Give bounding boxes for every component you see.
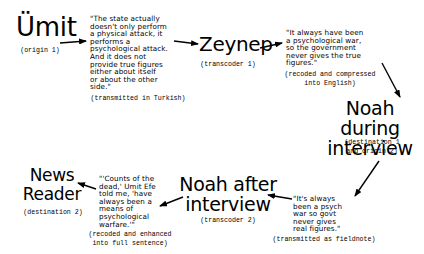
node-noah-after-role: (transcoder 2)	[188, 216, 268, 225]
node-news-reader-line: Reader	[20, 185, 84, 204]
message-3-line: real figures."	[293, 225, 363, 233]
message-2: "It always have been a psychological war…	[286, 29, 386, 67]
node-news-reader: News Reader	[20, 166, 84, 204]
message-1-line: side."	[90, 83, 190, 91]
node-noah-after: Noah after interview	[178, 174, 278, 214]
node-noah-during-line: Noah during	[316, 98, 424, 138]
message-4-note: (recoded and enhanced into full sentence…	[80, 230, 180, 248]
message-2-note: (recoded and compressed into English)	[272, 70, 388, 88]
message-1-note: (transmitted in Turkish)	[78, 94, 198, 103]
message-2-note-line: (recoded and compressed	[272, 70, 388, 79]
message-3-note: (transmitted as fieldnote)	[262, 235, 386, 244]
node-news-reader-role: (destination 2)	[12, 208, 94, 217]
node-zeynep-role: (transcoder 1)	[188, 60, 268, 69]
message-2-note-line: into English)	[272, 79, 388, 88]
message-3: "It's always been a psych war so govt ne…	[293, 195, 363, 233]
message-4-note-line: (recoded and enhanced	[80, 230, 180, 239]
node-noah-during-role-line: and origin 2)	[322, 147, 422, 156]
node-noah-after-line: interview	[178, 194, 278, 214]
node-noah-after-line: Noah after	[178, 174, 278, 194]
node-umit-role: (origin 1)	[14, 46, 66, 55]
node-noah-during-role-line: (destination 1	[322, 138, 422, 147]
arrow-noah-during-to-m3	[355, 161, 379, 196]
node-umit: Ümit	[16, 14, 77, 40]
message-4: "'Counts of the dead,' Umit Efe told me,…	[99, 175, 179, 228]
message-4-line: warfare.'"	[99, 221, 179, 229]
node-noah-during-role: (destination 1 and origin 2)	[322, 138, 422, 156]
message-1: "The state actually doesn't only perform…	[90, 15, 190, 91]
message-2-line: figures."	[286, 59, 386, 67]
node-news-reader-line: News	[20, 166, 84, 185]
node-zeynep: Zeynep	[199, 34, 273, 54]
message-4-note-line: into full sentence)	[80, 239, 180, 248]
